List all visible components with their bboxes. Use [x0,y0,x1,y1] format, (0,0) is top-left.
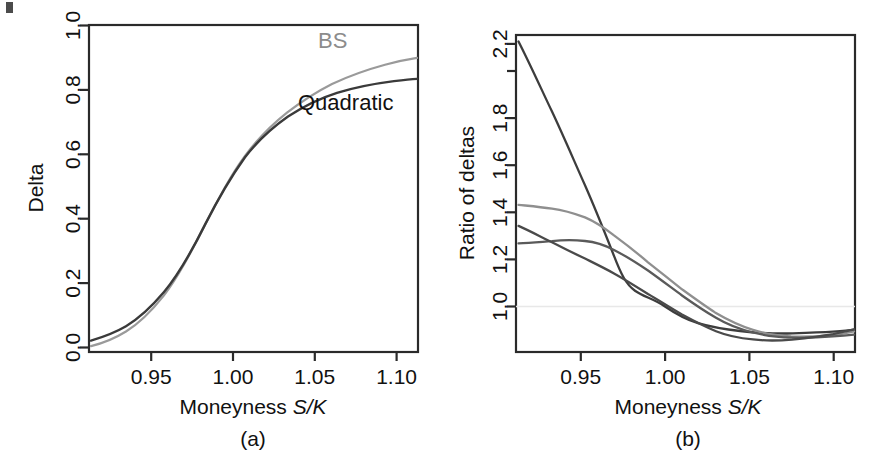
curve-ratio-steep [519,42,855,334]
x-axis-title-main: Moneyness [614,395,727,418]
curve-ratio-middle [519,240,855,338]
curve-quadratic [91,79,417,341]
panel-b: 1.0 1.2 1.4 1.6 1.8 2.2 Ratio of deltas … [445,0,891,462]
figure-container: 0.0 0.2 0.4 0.6 0.8 1.0 Delta 0.95 1.00 … [0,0,891,462]
y-ticklabel: 1.8 [488,103,511,132]
panel-a-y-ticklabels: 0.0 0.2 0.4 0.6 0.8 1.0 [61,11,84,362]
panel-b-y-axis-title: Ratio of deltas [455,126,478,260]
x-axis-title-main: Moneyness [179,395,292,418]
y-ticklabel: 0.6 [61,140,84,169]
panel-b-x-ticklabels: 0.95 1.00 1.05 1.10 [560,365,854,388]
x-ticklabel: 1.00 [213,365,254,388]
x-axis-title-italic: S/K [728,395,763,418]
x-ticklabel: 1.05 [729,365,770,388]
y-ticklabel: 0.0 [61,333,84,362]
x-axis-title-italic: S/K [293,395,328,418]
y-ticklabel: 1.2 [488,245,511,274]
panel-a-x-ticks [151,352,396,361]
curve-ratio-lower [519,226,855,341]
curve-label-quadratic: Quadratic [298,90,393,115]
panel-b-plot-frame [516,35,855,352]
panel-a: 0.0 0.2 0.4 0.6 0.8 1.0 Delta 0.95 1.00 … [0,0,446,462]
x-ticklabel: 1.00 [645,365,686,388]
y-ticklabel: 1.0 [61,11,84,40]
x-ticklabel: 0.95 [560,365,601,388]
panel-b-y-ticklabels: 1.0 1.2 1.4 1.6 1.8 2.2 [488,29,511,321]
panel-b-x-ticks [581,352,834,361]
panel-a-x-ticklabels: 0.95 1.00 1.05 1.10 [131,365,417,388]
y-ticklabel: 1.0 [488,292,511,321]
y-ticklabel: 0.8 [61,75,84,104]
panel-b-caption: (b) [675,427,701,450]
y-ticklabel: 1.4 [488,197,511,227]
y-ticklabel: 2.2 [488,29,511,58]
panel-a-y-ticks [80,26,89,348]
panel-a-caption: (a) [240,427,266,450]
panel-a-plot-frame [89,25,418,352]
panel-b-x-axis-title: Moneyness S/K [614,395,762,418]
x-ticklabel: 1.05 [294,365,335,388]
panel-a-x-axis-title: Moneyness S/K [179,395,327,418]
panel-a-y-axis-title: Delta [24,163,47,212]
y-ticklabel: 1.6 [488,151,511,180]
x-ticklabel: 1.10 [376,365,417,388]
curve-label-bs: BS [318,28,347,53]
x-ticklabel: 1.10 [813,365,854,388]
y-ticklabel: 0.4 [61,204,84,234]
x-ticklabel: 0.95 [131,365,172,388]
y-ticklabel: 0.2 [61,268,84,297]
